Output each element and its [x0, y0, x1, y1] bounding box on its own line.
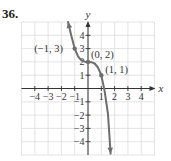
axes: xy: [22, 8, 164, 155]
point-marker: [86, 60, 90, 64]
y-tick-label: −1: [74, 96, 85, 107]
y-axis-label: y: [85, 8, 91, 20]
y-tick-label: −3: [74, 123, 85, 134]
point-label: (0, 2): [91, 49, 114, 61]
y-tick-label: 1: [80, 70, 85, 81]
point-label: (1, 1): [105, 64, 128, 76]
y-tick-label: 4: [80, 30, 85, 41]
curve-arrow-down-icon: [107, 147, 113, 153]
y-tick-label: 3: [80, 43, 85, 54]
x-tick-label: −3: [43, 91, 54, 102]
x-tick-label: −2: [56, 91, 67, 102]
point-label: (−1, 3): [34, 43, 63, 55]
x-tick-label: 3: [125, 91, 130, 102]
y-tick-label: −2: [74, 110, 85, 121]
x-tick-label: 4: [139, 91, 144, 102]
function-curve: [67, 22, 113, 154]
x-tick-label: 1: [99, 91, 104, 102]
x-axis-label: x: [158, 82, 164, 94]
x-tick-label: −4: [29, 91, 40, 102]
y-tick-label: −4: [74, 136, 85, 147]
point-marker: [73, 46, 77, 50]
point-marker: [99, 73, 103, 77]
x-tick-label: 2: [112, 91, 117, 102]
cubic-function-graph: xy −4−3−2−11234−4−3−2−11234 (−1, 3)(0, 2…: [0, 0, 171, 161]
